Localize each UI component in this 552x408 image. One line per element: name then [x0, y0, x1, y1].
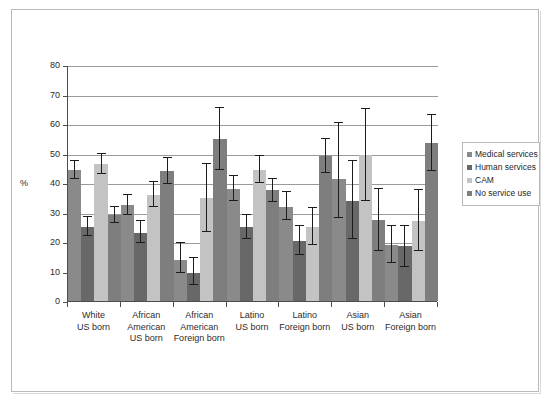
error-bar-cap-upper	[334, 122, 343, 123]
error-bar-cap-lower	[202, 231, 211, 232]
error-bar	[206, 164, 207, 232]
error-bar	[140, 221, 141, 243]
error-bar-cap-lower	[176, 272, 185, 273]
legend-label: Human services	[475, 163, 536, 172]
error-bar-cap-lower	[282, 219, 291, 220]
error-bar-cap-upper	[308, 207, 317, 208]
error-bar-cap-lower	[321, 172, 330, 173]
error-bar-cap-lower	[229, 200, 238, 201]
x-axis-label-line: Asian	[368, 310, 454, 322]
error-bar-cap-upper	[97, 153, 106, 154]
error-bar	[180, 243, 181, 273]
error-bar	[365, 109, 366, 200]
error-bar-cap-upper	[229, 175, 238, 176]
error-bar-cap-lower	[308, 244, 317, 245]
legend-item[interactable]: Human services	[467, 161, 536, 174]
error-bar-cap-lower	[149, 206, 158, 207]
error-bar-cap-lower	[400, 266, 409, 267]
error-bar	[74, 161, 75, 179]
error-bar-cap-upper	[282, 191, 291, 192]
error-bar-cap-lower	[295, 254, 304, 255]
error-bar	[338, 123, 339, 219]
error-bar-cap-upper	[295, 225, 304, 226]
legend-label: No service use	[475, 189, 531, 198]
x-axis-tick-mark	[120, 302, 121, 307]
error-bar-cap-lower	[136, 242, 145, 243]
error-bar	[114, 207, 115, 223]
error-bar-cap-lower	[427, 170, 436, 171]
bar	[227, 189, 240, 301]
error-bar-cap-upper	[427, 114, 436, 115]
x-axis-tick-mark	[67, 302, 68, 307]
error-bar-cap-upper	[189, 257, 198, 258]
error-bar	[233, 176, 234, 201]
error-bar-cap-upper	[400, 225, 409, 226]
legend-label: Medical services	[475, 150, 538, 159]
y-axis-tick-label: 60	[34, 120, 60, 129]
bar	[160, 171, 173, 301]
legend-item[interactable]: Medical services	[467, 148, 536, 161]
error-bar-cap-upper	[123, 194, 132, 195]
x-axis-tick-mark	[226, 302, 227, 307]
y-axis-tick-label: 70	[34, 91, 60, 100]
error-bar	[87, 217, 88, 236]
error-bar	[391, 226, 392, 263]
x-axis-category-label: AsianForeign born	[368, 310, 454, 333]
error-bar-cap-upper	[321, 138, 330, 139]
error-bar-cap-lower	[83, 235, 92, 236]
error-bar-cap-upper	[215, 107, 224, 108]
error-bar-cap-lower	[268, 201, 277, 202]
error-bar-cap-lower	[387, 262, 396, 263]
error-bar	[193, 258, 194, 285]
error-bar-cap-lower	[123, 214, 132, 215]
legend-item[interactable]: No service use	[467, 187, 536, 200]
plot-area	[67, 66, 437, 302]
bar	[147, 195, 160, 301]
x-axis-tick-mark	[437, 302, 438, 307]
y-axis-tick-label: 50	[34, 150, 60, 159]
error-bar	[299, 226, 300, 256]
x-axis-tick-mark	[331, 302, 332, 307]
error-bar-cap-upper	[70, 160, 79, 161]
error-bar	[431, 115, 432, 171]
x-axis-tick-mark	[173, 302, 174, 307]
error-bar-cap-upper	[361, 108, 370, 109]
error-bar	[272, 179, 273, 203]
error-bar-cap-lower	[361, 200, 370, 201]
error-bar	[101, 154, 102, 175]
error-bar-cap-lower	[97, 173, 106, 174]
error-bar	[312, 208, 313, 245]
error-bar	[325, 139, 326, 173]
x-axis-label-line: Foreign born	[156, 333, 242, 345]
chart-legend: Medical servicesHuman servicesCAMNo serv…	[462, 142, 540, 206]
bar	[266, 190, 279, 301]
y-axis-tick-label: 80	[34, 61, 60, 70]
error-bar-cap-lower	[374, 250, 383, 251]
bar	[279, 207, 292, 301]
error-bar	[378, 189, 379, 251]
error-bar	[418, 190, 419, 250]
legend-swatch	[467, 152, 472, 157]
error-bar-cap-upper	[348, 160, 357, 161]
y-axis-tick-label: 30	[34, 209, 60, 218]
bar	[94, 164, 107, 301]
error-bar-cap-lower	[255, 182, 264, 183]
gridline	[68, 66, 438, 67]
error-bar-cap-lower	[110, 222, 119, 223]
x-axis-label-line: Foreign born	[368, 322, 454, 334]
error-bar	[259, 156, 260, 183]
error-bar-cap-lower	[334, 217, 343, 218]
error-bar-cap-upper	[374, 188, 383, 189]
y-axis-tick-label: 20	[34, 238, 60, 247]
error-bar-cap-upper	[163, 157, 172, 158]
error-bar-cap-upper	[255, 155, 264, 156]
error-bar	[153, 182, 154, 207]
gridline	[68, 155, 438, 156]
legend-item[interactable]: CAM	[467, 174, 536, 187]
gridline	[68, 125, 438, 126]
error-bar-cap-upper	[268, 178, 277, 179]
error-bar	[352, 161, 353, 239]
y-axis-tick-label: 40	[34, 179, 60, 188]
error-bar-cap-upper	[149, 181, 158, 182]
bar	[81, 227, 94, 301]
